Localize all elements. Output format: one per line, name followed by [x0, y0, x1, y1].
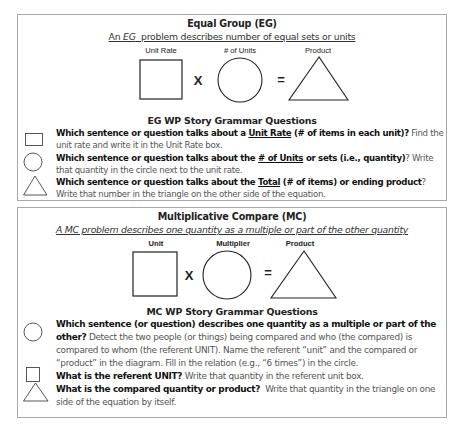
equal-group-panel: Equal Group (EG) An EG problem describes…: [17, 14, 447, 201]
circle-icon: [23, 322, 44, 343]
eg-subtitle-em: EG: [123, 31, 136, 42]
eg-subtitle-post: problem describes number of equal sets o…: [136, 31, 356, 42]
mc-questions-heading: MC WP Story Grammar Questions: [18, 306, 446, 317]
mc-subtitle: A MC problem describes one quantity as a…: [18, 224, 446, 235]
eg-subtitle: An EG problem describes number of equal …: [18, 31, 446, 42]
square-icon: [25, 133, 44, 147]
eg-label-product: Product: [305, 46, 331, 55]
eg-question-number-of-units: Which sentence or question talks about t…: [56, 152, 446, 176]
mc-question-relation: Which sentence (or question) describes o…: [56, 318, 446, 370]
q-bold: (# of items) or ending product: [280, 177, 422, 187]
eg-times-sign: X: [194, 73, 203, 88]
q-key-term: # of Units: [258, 153, 303, 163]
q-instruction: Write that quantity in the referent unit…: [182, 371, 363, 381]
q-instruction: Detect the two people (or things) being …: [56, 332, 417, 368]
mc-unit-square-icon: [132, 251, 179, 298]
eg-label-number-of-units: # of Units: [224, 46, 256, 55]
eg-questions-heading: EG WP Story Grammar Questions: [18, 115, 446, 126]
eg-question-total: Which sentence or question talks about t…: [56, 176, 446, 200]
mc-question-compared-product: What is the compared quantity or product…: [56, 383, 446, 409]
q-key-term: Total: [258, 177, 280, 187]
eg-question-unit-rate: Which sentence or question talks about a…: [56, 127, 446, 151]
q-key-term: Unit Rate: [248, 128, 291, 138]
mc-question-referent-unit: What is the referent UNIT? Write that qu…: [56, 370, 446, 383]
eg-label-unit-rate: Unit Rate: [145, 46, 177, 55]
circle-icon: [23, 152, 44, 173]
eg-number-of-units-circle-icon: [217, 57, 265, 105]
eg-subtitle-pre: An: [109, 31, 123, 42]
eg-equals-sign: =: [277, 72, 285, 87]
q-bold: Which sentence or question talks about t…: [56, 177, 258, 187]
triangle-icon: [23, 175, 48, 196]
multiplicative-compare-panel: Multiplicative Compare (MC) A MC problem…: [17, 207, 447, 418]
mc-title: Multiplicative Compare (MC): [18, 211, 446, 222]
mc-product-triangle-icon: [270, 250, 338, 300]
eg-product-triangle-icon: [288, 56, 350, 102]
q-bold: What is the compared quantity or product…: [56, 384, 260, 394]
mc-label-product: Product: [286, 239, 315, 248]
eg-title: Equal Group (EG): [18, 18, 446, 29]
q-bold: or sets (i.e., quantity): [303, 153, 405, 163]
q-bold: What is the referent UNIT?: [56, 371, 182, 381]
q-bold: Which sentence or question talks about a: [56, 128, 248, 138]
triangle-icon: [23, 382, 49, 402]
mc-multiplier-circle-icon: [202, 250, 254, 302]
mc-label-unit: Unit: [149, 239, 164, 248]
mc-label-multiplier: Multiplier: [216, 239, 250, 248]
square-icon: [26, 367, 41, 383]
q-bold: Which sentence or question talks about t…: [56, 153, 258, 163]
eg-unit-rate-square-icon: [139, 59, 184, 101]
q-bold: (# of items in each unit)?: [291, 128, 409, 138]
mc-subtitle-text: A MC problem describes one quantity as a…: [56, 224, 408, 235]
mc-times-sign: X: [185, 268, 194, 283]
